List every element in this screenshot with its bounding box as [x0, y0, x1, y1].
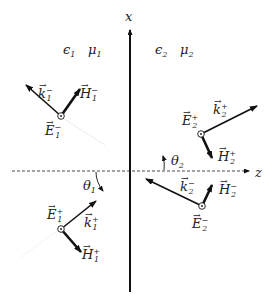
- z-axis-label: z: [255, 166, 262, 179]
- vector-e2-plus-label: →E+2: [182, 114, 197, 127]
- theta-symbol: θ: [83, 178, 91, 193]
- vector-arrow-accent: →: [81, 81, 89, 90]
- medium-2-mu: μ2: [180, 43, 194, 56]
- subscript: 1: [93, 223, 98, 232]
- subscript: 1: [92, 94, 97, 103]
- subscript: 1: [47, 94, 52, 103]
- vector-k1-minus-label: →k−1: [38, 87, 52, 100]
- subscript: 1: [91, 186, 96, 195]
- subscript: 1: [96, 50, 101, 59]
- medium-1-mu: μ1: [88, 43, 102, 56]
- vector-arrow-accent: →: [83, 242, 91, 251]
- subscript: 2: [189, 187, 194, 196]
- vector-h2-minus-label: →H−2: [219, 183, 236, 196]
- subscript: 2: [192, 121, 197, 130]
- subscript: 1: [70, 50, 75, 59]
- vector-arrow-accent: →: [220, 177, 228, 186]
- vector-arrow-accent: →: [183, 108, 191, 117]
- subscript: 1: [94, 255, 99, 264]
- subscript: 2: [202, 224, 207, 233]
- wave-1-minus: [26, 85, 80, 119]
- vector-e1-minus-label: →E−1: [45, 124, 60, 137]
- vector-k1-plus-label: →k+1: [84, 216, 98, 229]
- vector-h2-plus-label: →H+2: [218, 150, 235, 163]
- wave-2-minus: [146, 179, 212, 209]
- x-axis-label: x: [125, 10, 132, 23]
- vector-arrow-accent: →: [46, 118, 54, 127]
- subscript: 2: [222, 110, 227, 119]
- subscript: 2: [179, 161, 184, 170]
- vector-e2-minus-label: →E−2: [192, 217, 207, 230]
- angle-theta-1-label: θ1: [83, 179, 96, 192]
- vector-h1-plus-label: →H+1: [82, 248, 99, 261]
- vector-arrow-accent: →: [219, 144, 227, 153]
- angle-theta-2-arc: [163, 156, 164, 170]
- medium-1-epsilon: ϵ1: [63, 43, 75, 56]
- vector-arrow-accent: →: [48, 202, 56, 211]
- medium-2-epsilon: ϵ2: [155, 43, 167, 56]
- vector-arrow-accent: →: [193, 211, 201, 220]
- em-wave-interface-diagram: x z ϵ1 μ1 ϵ2 μ2 θ1 θ2 →k−1 →H−1 →E−1 →E+…: [0, 0, 278, 302]
- angle-theta-2-label: θ2: [171, 154, 184, 167]
- vector-h1-minus-label: →H−1: [80, 87, 97, 100]
- subscript: 2: [230, 157, 235, 166]
- subscript: 1: [57, 215, 62, 224]
- vector-e1-plus-label: →E+1: [47, 208, 62, 221]
- subscript: 1: [55, 131, 60, 140]
- subscript: 2: [162, 50, 167, 59]
- vector-k2-plus-label: →k+2: [213, 103, 227, 116]
- subscript: 2: [231, 190, 236, 199]
- subscript: 2: [188, 50, 193, 59]
- theta-symbol: θ: [171, 153, 179, 168]
- vector-k2-minus-label: →k−2: [180, 180, 194, 193]
- diagram-canvas: [0, 0, 278, 302]
- angle-theta-1-arc: [96, 172, 103, 191]
